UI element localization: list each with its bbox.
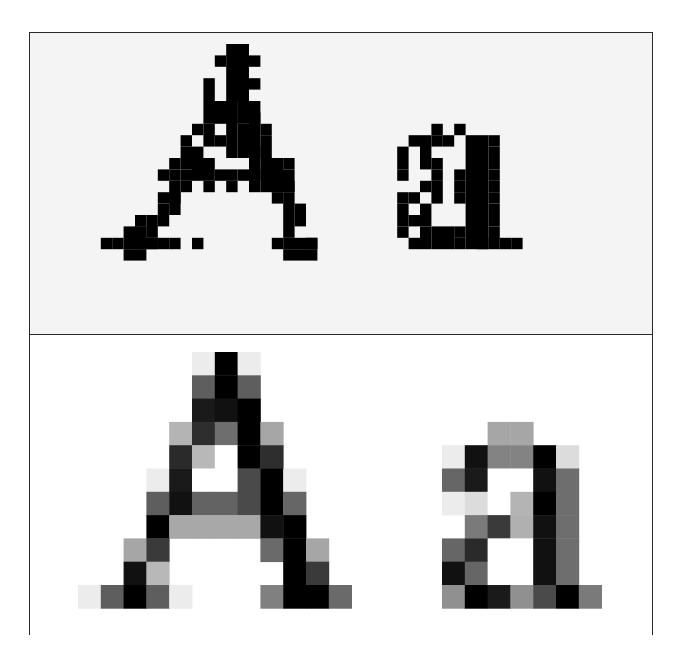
pixel-cell [215,352,238,376]
pixel-cell [192,238,203,249]
pixel-cell [431,135,442,146]
pixel-cell [488,515,511,539]
pixel-cell [272,181,295,192]
pixel-cell [215,399,238,423]
pixel-cell [169,192,180,215]
pixel-cell [442,538,465,562]
pixel-cell [510,422,533,446]
pixel-cell [442,445,465,469]
pixel-cell [169,515,192,539]
pixel-cell [454,169,465,180]
pixel-cell [169,422,192,446]
pixel-cell [146,562,169,586]
pixel-cell [488,169,499,180]
pixel-cell [215,55,226,66]
pixel-cell [146,515,169,539]
pixel-cell [203,181,214,192]
pixel-cell [169,492,192,516]
pixel-cell [283,192,294,238]
pixel-cell [192,399,215,423]
pixel-cell [146,469,169,493]
pixel-cell [420,181,431,192]
pixel-cell [249,78,260,89]
pixel-cell [283,562,306,586]
pixel-cell [488,538,511,562]
pixel-cell [465,562,488,586]
pixel-cell [488,585,511,609]
pixel-cell [192,158,215,181]
pixel-cell [442,492,465,516]
pixel-cell [146,538,169,562]
pixel-cell [579,585,602,609]
dithered-letters-Aa [101,44,523,261]
pixel-cell [124,538,147,562]
pixel-cell [533,515,556,539]
pixel-cell [465,538,488,562]
pixel-cell [533,492,556,516]
pixel-cell [158,169,169,180]
pixel-cell [238,124,249,158]
pixel-cell [158,192,169,203]
pixel-cell [215,375,238,399]
pixel-cell [283,492,306,516]
pixel-cell [420,226,431,249]
pixel-cell [431,169,442,180]
letter-rendering-canvas [0,0,684,665]
pixel-cell [454,192,465,203]
pixel-cell [409,135,420,146]
pixel-cell [249,169,260,180]
pixel-cell [124,562,147,586]
grayscale-letter-a [442,422,602,609]
pixel-cell [283,158,294,169]
pixel-cell [488,135,499,146]
pixel-cell [260,538,283,562]
pixel-cell [260,492,283,516]
pixel-cell [454,226,465,237]
pixel-cell [158,238,169,249]
pixel-cell [510,515,533,539]
pixel-cell [295,215,306,226]
pixel-cell [238,445,261,469]
pixel-cell [488,469,511,493]
pixel-cell [238,169,249,180]
pixel-cell [260,469,283,493]
pixel-cell [556,515,579,539]
pixel-cell [283,538,306,562]
pixel-cell [409,215,420,226]
pixel-cell [431,226,454,249]
pixel-cell [283,515,306,539]
pixel-cell [226,44,249,101]
pixel-cell [146,492,169,516]
pixel-cell [488,445,511,469]
pixel-cell [260,422,283,446]
pixel-cell [488,422,511,446]
pixel-cell [420,158,431,169]
pixel-cell [226,181,237,192]
pixel-cell [465,515,488,539]
pixel-cell [556,562,579,586]
pixel-cell [215,492,238,516]
pixel-cell [556,445,579,469]
pixel-cell [238,422,261,446]
pixel-cell [488,204,499,227]
pixel-cell [465,469,488,493]
pixel-cell [101,585,124,609]
pixel-cell [192,422,215,446]
pixel-cell [203,124,214,147]
pixel-cell [306,238,317,249]
pixel-cell [533,585,556,609]
pixel-cell [124,249,147,260]
pixel-cell [169,469,192,493]
pixel-cell [556,585,579,609]
pixel-cell [135,215,146,226]
pixel-cell [181,181,192,192]
pixel-cell [510,562,533,586]
pixel-cell [238,515,261,539]
pixel-cell [488,226,499,249]
pixel-cell [238,375,261,399]
pixel-cell [249,181,260,192]
pixel-cell [169,585,192,609]
pixel-cell [192,352,215,376]
pixel-cell [272,192,283,203]
grayscale-letter-A [78,352,352,609]
